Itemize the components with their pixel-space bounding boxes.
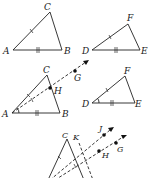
label-h: H [53, 86, 62, 96]
figure-3: C K J G H [48, 124, 127, 178]
label-b: B [63, 46, 71, 56]
tick-mark-ah-3 [74, 164, 76, 168]
label-d-2: D [81, 99, 89, 109]
label-b-2: B [61, 109, 69, 119]
label-d: D [81, 46, 89, 56]
geometry-diagram: A B C D E F A B C H G [0, 0, 150, 178]
label-h-3: H [101, 151, 110, 160]
label-c-3: C [62, 131, 68, 140]
point-j [102, 133, 106, 137]
label-a: A [2, 46, 10, 56]
side-cb-3 [67, 139, 84, 178]
label-g: G [74, 73, 81, 83]
label-f-2: F [123, 66, 131, 76]
angle-arc-d [98, 99, 99, 103]
label-f: F [126, 13, 134, 23]
label-e-2: E [134, 99, 142, 109]
triangle-abc [13, 12, 62, 50]
side-ac-3 [48, 139, 67, 178]
figure-2: A B C H G D E F [1, 60, 142, 119]
triangle-def [92, 24, 140, 50]
label-j: J [97, 124, 103, 133]
arrowhead-icon [121, 135, 127, 139]
figure-1: A B C D E F [2, 2, 148, 56]
point-h [48, 86, 52, 90]
triangle-abc-2 [12, 75, 60, 113]
label-c: C [44, 2, 51, 12]
label-e: E [140, 46, 148, 56]
label-g-3: G [117, 145, 124, 154]
label-k: K [72, 133, 80, 142]
point-h-3 [97, 149, 101, 153]
label-a-2: A [1, 109, 9, 119]
label-c-2: C [43, 65, 50, 75]
arrowhead-icon [83, 60, 89, 65]
